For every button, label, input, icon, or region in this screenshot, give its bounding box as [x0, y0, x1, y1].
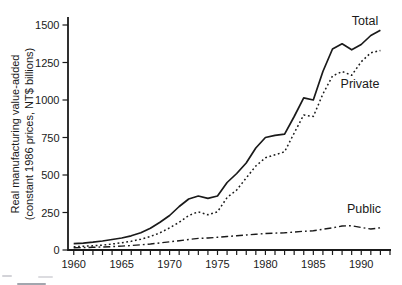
x-tick-label: 1990: [349, 258, 373, 270]
y-tick-label: 500: [41, 169, 59, 181]
line-chart: 0250500750100012501500196019651970197519…: [0, 0, 402, 285]
series-label-total: Total: [352, 14, 378, 28]
y-tick-label: 1250: [35, 57, 59, 69]
series-label-private: Private: [341, 77, 380, 91]
chart-figure: 0250500750100012501500196019651970197519…: [0, 0, 402, 285]
y-axis-title-line1: Real manufacturing value-added: [9, 55, 21, 214]
x-tick-label: 1965: [109, 258, 133, 270]
series-line-total: [74, 30, 381, 243]
series-label-public: Public: [347, 202, 381, 216]
y-tick-label: 1000: [35, 94, 59, 106]
series-line-private: [74, 51, 381, 247]
y-tick-label: 1500: [35, 19, 59, 31]
x-tick-label: 1960: [62, 258, 86, 270]
y-axis-title-line2: (constant 1986 prices, NT$ billions): [23, 48, 35, 220]
y-tick-label: 250: [41, 207, 59, 219]
x-tick-label: 1980: [253, 258, 277, 270]
series-line-public: [74, 226, 381, 248]
series-lines: [74, 30, 381, 248]
x-tick-label: 1970: [157, 258, 181, 270]
axis-spines: [68, 17, 391, 250]
cropped-caption-fragment: [38, 276, 53, 278]
axes: [68, 17, 391, 250]
axis-ticks: 0250500750100012501500196019651970197519…: [35, 19, 390, 270]
cropped-caption-fragment: [2, 275, 12, 277]
y-tick-label: 0: [53, 244, 59, 256]
y-tick-label: 750: [41, 132, 59, 144]
x-tick-label: 1975: [205, 258, 229, 270]
x-tick-label: 1985: [301, 258, 325, 270]
